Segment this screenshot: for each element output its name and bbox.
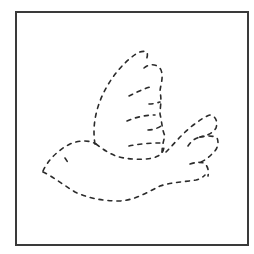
dove-tail-outline bbox=[166, 115, 217, 152]
dove-feather-line-1 bbox=[129, 86, 154, 96]
dove-feather-line-2 bbox=[149, 102, 160, 104]
dove-feather-line-5 bbox=[129, 143, 160, 146]
dove-tail-crease-line bbox=[188, 137, 200, 146]
dove-eye-icon bbox=[65, 158, 69, 164]
dove-feather-line-3 bbox=[127, 115, 155, 121]
dove-tail-inner-line bbox=[200, 136, 218, 162]
dove-feather-line-4 bbox=[148, 126, 161, 130]
dove-tracing-drawing bbox=[0, 0, 254, 254]
dove-head-outline bbox=[43, 141, 96, 171]
dove-upper-wing-outline bbox=[94, 51, 147, 144]
dove-belly-outline bbox=[43, 172, 205, 201]
dove-wing-back-edge bbox=[144, 65, 165, 153]
dove-tail-feather-line bbox=[190, 162, 208, 176]
